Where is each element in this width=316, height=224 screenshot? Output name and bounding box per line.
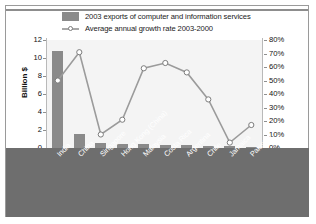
legend-line-marker-icon [62,24,79,33]
y-tick-left-4: 4 [18,107,42,116]
bar-india [52,51,63,148]
y-tick-right-50: 50% [269,76,284,85]
plot-area [47,40,262,148]
y-tickmark-right [264,81,267,82]
y-tickmark-left [43,130,46,131]
y-tick-right-20: 20% [269,116,284,125]
legend-item-bar: 2003 exports of computer and information… [62,11,302,22]
y-tick-right-70: 70% [269,49,284,58]
y-tickmark-right [264,121,267,122]
legend-line-label: Average annual growth rate 2003-2000 [85,24,213,33]
legend-bar-label: 2003 exports of computer and information… [85,12,251,21]
y-tick-left-12: 12 [18,35,42,44]
y-tick-left-10: 10 [18,53,42,62]
y-tick-left-8: 8 [18,71,42,80]
y-tick-right-60: 60% [269,62,284,71]
y-tickmark-right [264,40,267,41]
y-tick-right-80: 80% [269,35,284,44]
chart-container: 2003 exports of computer and information… [0,0,316,224]
y-tick-right-40: 40% [269,89,284,98]
y-tickmark-right [264,67,267,68]
y-tickmark-right [264,108,267,109]
y-tickmark-right [264,94,267,95]
category-band [6,148,309,217]
legend-bar-swatch-icon [62,12,79,21]
y-axis-right-line [262,38,263,150]
y-tickmark-left [43,58,46,59]
chart-legend: 2003 exports of computer and information… [62,11,302,35]
legend-item-line: Average annual growth rate 2003-2000 [62,23,302,34]
y-tickmark-left [43,76,46,77]
y-tickmark-left [43,40,46,41]
y-tick-left-2: 2 [18,125,42,134]
y-tick-left-6: 6 [18,89,42,98]
y-tickmark-left [43,112,46,113]
y-tickmark-left [43,94,46,95]
y-tickmark-right [264,54,267,55]
y-tick-right-30: 30% [269,103,284,112]
